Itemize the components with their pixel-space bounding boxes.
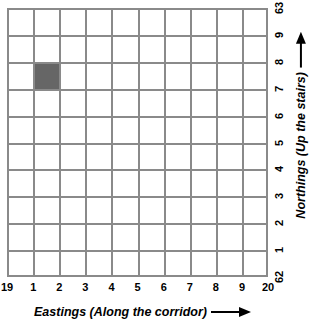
- y-axis-tick-label-text: 6: [273, 113, 285, 119]
- y-axis-tick-label-text: 62: [273, 271, 285, 283]
- grid-line-horizontal: [7, 223, 268, 225]
- grid-line-horizontal: [7, 250, 268, 252]
- x-axis-tick-label: 19: [1, 280, 13, 294]
- x-axis-tick-label: 2: [56, 280, 62, 294]
- y-axis-tick-label: 63: [270, 2, 288, 14]
- x-axis-tick-label: 9: [239, 280, 245, 294]
- y-axis-tick-label: 8: [270, 56, 288, 68]
- y-axis-tick-label: 2: [270, 217, 288, 229]
- grid-line-horizontal: [7, 8, 268, 10]
- grid-line-horizontal: [7, 89, 268, 91]
- grid-line-horizontal: [7, 62, 268, 64]
- grid-line-horizontal: [7, 143, 268, 145]
- y-axis-tick-label-text: 9: [273, 32, 285, 38]
- x-axis-tick-label: 8: [213, 280, 219, 294]
- grid-line-horizontal: [7, 169, 268, 171]
- y-axis-tick-label: 4: [270, 163, 288, 175]
- y-axis-tick-label-text: 2: [273, 220, 285, 226]
- y-axis-tick-label-text: 4: [273, 166, 285, 172]
- x-axis-tick-label: 5: [135, 280, 141, 294]
- grid-line-horizontal: [7, 275, 268, 277]
- arrow-up-icon: [294, 32, 310, 68]
- x-axis-tick-label: 7: [187, 280, 193, 294]
- x-axis-tick-labels: 1912345678920: [7, 280, 268, 295]
- y-axis-tick-label: 1: [270, 244, 288, 256]
- y-axis-tick-label-text: 1: [273, 247, 285, 253]
- arrow-right-icon: [211, 304, 251, 322]
- grid-line-horizontal: [7, 116, 268, 118]
- y-axis-tick-label-text: 3: [273, 193, 285, 199]
- x-axis-title-text: Eastings (Along the corridor): [34, 305, 207, 319]
- y-axis-tick-label: 62: [270, 271, 288, 283]
- y-axis-tick-labels: 6398765432162: [270, 8, 288, 277]
- grid-cell-filled[interactable]: [33, 62, 59, 89]
- y-axis-tick-label: 6: [270, 110, 288, 122]
- y-axis-title-text: Northings (Up the stairs): [294, 72, 308, 219]
- y-axis-tick-label: 5: [270, 137, 288, 149]
- y-axis-title: Northings (Up the stairs): [288, 0, 315, 250]
- y-axis-tick-label: 3: [270, 190, 288, 202]
- y-axis-tick-label: 7: [270, 83, 288, 95]
- y-axis-tick-label-text: 8: [273, 59, 285, 65]
- grid-line-horizontal: [7, 196, 268, 198]
- y-axis-tick-label: 9: [270, 29, 288, 41]
- y-axis-tick-label-text: 63: [273, 2, 285, 14]
- grid-line-horizontal: [7, 35, 268, 37]
- x-axis-tick-label: 3: [82, 280, 88, 294]
- x-axis-tick-label: 4: [108, 280, 114, 294]
- y-axis-tick-label-text: 5: [273, 140, 285, 146]
- grid-reference-figure: 1912345678920 Eastings (Along the corrid…: [0, 0, 315, 327]
- x-axis-tick-label: 1: [30, 280, 36, 294]
- x-axis-tick-label: 6: [161, 280, 167, 294]
- x-axis-title: Eastings (Along the corridor): [0, 303, 285, 322]
- y-axis-tick-label-text: 7: [273, 86, 285, 92]
- grid-plot-area[interactable]: [7, 8, 268, 277]
